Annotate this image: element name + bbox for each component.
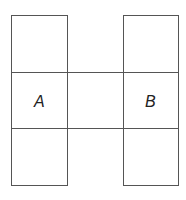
label-a: A [34,94,45,110]
right-top-square [123,15,179,73]
left-top-square [11,15,68,73]
center-square [67,72,124,129]
right-bottom-square [123,128,179,186]
left-bottom-square [11,128,68,186]
label-b: B [145,94,156,110]
